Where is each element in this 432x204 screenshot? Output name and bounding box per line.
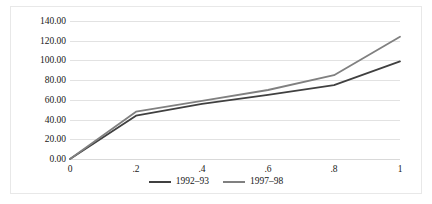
x-axis-line xyxy=(70,159,400,160)
chart-container: 0.0020.0040.0060.0080.00100.00120.00140.… xyxy=(0,0,432,204)
y-axis-labels: 0.0020.0040.0060.0080.00100.00120.00140.… xyxy=(4,21,66,159)
legend-label: 1997–98 xyxy=(250,176,283,187)
series-line xyxy=(70,37,400,159)
legend-label: 1992–93 xyxy=(176,176,209,187)
y-axis-tick-label: 40.00 xyxy=(6,115,66,125)
y-axis-tick-label: 100.00 xyxy=(6,55,66,65)
x-axis-tick-label: .6 xyxy=(264,163,271,175)
y-axis-tick-label: 20.00 xyxy=(6,134,66,144)
chart-legend: 1992–931997–98 xyxy=(0,176,432,187)
x-axis-tick-label: 0 xyxy=(68,163,73,175)
x-axis-tick-label: 1 xyxy=(398,163,403,175)
legend-swatch xyxy=(149,181,171,183)
plot-area xyxy=(70,21,400,159)
y-axis-tick-label: 60.00 xyxy=(6,95,66,105)
y-axis-tick-label: 80.00 xyxy=(6,75,66,85)
series-lines xyxy=(70,21,400,159)
series-line xyxy=(70,61,400,159)
x-axis-labels: 0.2.4.6.81 xyxy=(70,163,400,177)
y-axis-tick-label: 0.00 xyxy=(6,154,66,164)
x-axis-tick-label: .2 xyxy=(132,163,139,175)
y-axis-tick-label: 140.00 xyxy=(6,16,66,26)
legend-item[interactable]: 1992–93 xyxy=(149,176,209,187)
y-axis-tick-label: 120.00 xyxy=(6,36,66,46)
legend-item[interactable]: 1997–98 xyxy=(223,176,283,187)
x-axis-tick-label: .4 xyxy=(198,163,205,175)
x-axis-tick-label: .8 xyxy=(330,163,337,175)
legend-swatch xyxy=(223,181,245,183)
